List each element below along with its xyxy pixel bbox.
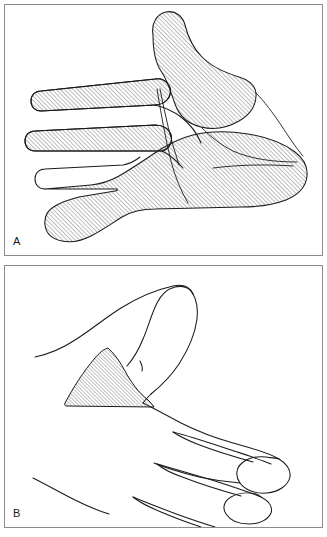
hatched-thumb-region: [153, 12, 256, 129]
index-finger-outline: [173, 432, 271, 464]
panel-label-a: A: [13, 236, 20, 247]
hatched-web-space-region: [65, 348, 154, 407]
little-finger-outline: [133, 497, 215, 527]
wrist-contour-line: [33, 478, 109, 514]
hand-dorsum-outline: [143, 403, 290, 493]
panel-b-illustration: [5, 266, 322, 527]
ring-finger-outline: [157, 464, 272, 524]
panel-label-b: B: [13, 508, 20, 519]
hatched-middle-finger: [25, 125, 172, 151]
panel-a: A: [4, 4, 323, 256]
panel-b: B: [4, 265, 323, 528]
figure-root: A: [0, 0, 327, 537]
panel-a-illustration: [5, 5, 322, 255]
hatched-index-finger: [31, 79, 171, 111]
